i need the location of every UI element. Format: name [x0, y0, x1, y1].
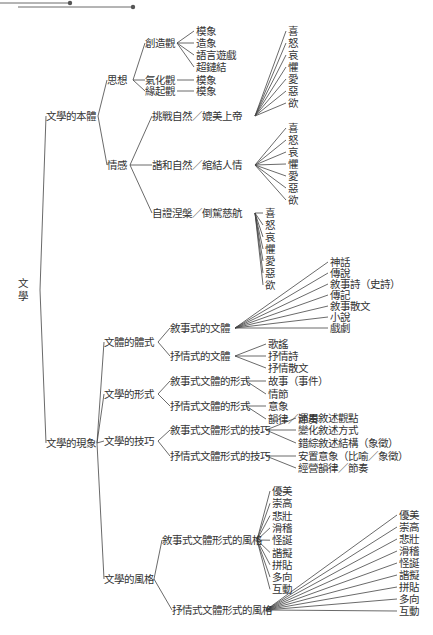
form-leaf: 情節 [268, 388, 288, 400]
category-node: 思想 [107, 74, 127, 86]
style-leaf: 崇高 [272, 497, 292, 509]
subcategory-node: 自證涅槃／倒駕慈航 [152, 207, 242, 219]
technique-leaf: 運用敘述觀點 [298, 412, 358, 424]
genre-leaf: 抒情散文 [268, 362, 308, 374]
header-decoration [0, 1, 135, 9]
emotion-leaf: 喜 [288, 122, 298, 134]
subcategory-node: 敘事式的文體 [170, 322, 230, 334]
form-leaf: 意象 [268, 400, 288, 412]
emotion-leaf: 哀 [288, 49, 298, 61]
emotion-leaf: 怒 [288, 37, 298, 49]
emotion-leaf: 惡 [288, 182, 298, 194]
style-leaf: 多向 [272, 571, 292, 583]
category-node: 文體的體式 [104, 336, 154, 348]
root-node: 文 學 [17, 277, 29, 303]
leaf-node: 模象 [196, 85, 216, 97]
subcategory-node: 挑戰自然／媲美上帝 [152, 110, 242, 122]
style-leaf: 互動 [272, 583, 292, 595]
style-leaf: 拼貼 [272, 559, 292, 571]
category-node: 文學的技巧 [104, 435, 154, 447]
literature-tree-diagram: 文 學 文學的本體文學的現象思想情感創造觀氣化觀緣起觀模象造象語言遊戲超鏈結模象… [0, 0, 433, 635]
form-leaf: 故事（事件） [268, 375, 328, 387]
subcategory-node: 抒情式的文體 [170, 350, 230, 362]
emotion-leaf: 惡 [265, 267, 275, 279]
style-leaf: 崇高 [399, 521, 419, 533]
technique-leaf: 錯綜敘述結構（象徵） [298, 437, 398, 449]
subcategory-node: 諧和自然／綰結人情 [152, 159, 242, 171]
style-leaf: 拼貼 [399, 581, 419, 593]
emotion-leaf: 懼 [288, 61, 298, 73]
emotion-leaf: 愛 [288, 73, 298, 85]
subcategory-node: 創造觀 [145, 37, 175, 49]
style-leaf: 互動 [399, 605, 419, 617]
style-leaf: 滑稽 [272, 522, 292, 534]
style-leaf: 諧擬 [399, 569, 419, 581]
emotion-leaf: 懼 [288, 158, 298, 170]
category-node: 文學的風格 [104, 573, 154, 585]
technique-leaf: 經營韻律／節奏 [298, 462, 368, 474]
style-leaf: 諧擬 [272, 547, 292, 559]
branch-node: 文學的現象 [46, 437, 96, 449]
style-leaf: 悲壯 [399, 533, 419, 545]
style-leaf: 怪誕 [399, 557, 419, 569]
emotion-leaf: 欲 [288, 194, 298, 206]
emotion-leaf: 惡 [288, 85, 298, 97]
subcategory-node: 緣起觀 [145, 85, 175, 97]
emotion-leaf: 喜 [265, 207, 275, 219]
leaf-node: 造象 [196, 37, 216, 49]
branch-node: 文學的本體 [46, 110, 96, 122]
emotion-leaf: 愛 [288, 170, 298, 182]
style-leaf: 多向 [399, 593, 419, 605]
root-char: 學 [17, 290, 29, 303]
genre-leaf: 抒情詩 [268, 350, 298, 362]
subcategory-node: 抒情式文體的形式 [170, 400, 250, 412]
subcategory-node: 敘事式文體形式的風格 [162, 534, 262, 546]
emotion-leaf: 愛 [265, 255, 275, 267]
style-leaf: 悲壯 [272, 510, 292, 522]
emotion-leaf: 欲 [265, 279, 275, 291]
genre-leaf: 歌謠 [268, 338, 288, 350]
root-char: 文 [17, 277, 29, 290]
subcategory-node: 敘事式文體形式的技巧 [170, 424, 270, 436]
subcategory-node: 抒情式文體形式的技巧 [170, 450, 270, 462]
leaf-node: 模象 [196, 25, 216, 37]
style-leaf: 優美 [272, 485, 292, 497]
style-leaf: 優美 [399, 509, 419, 521]
emotion-leaf: 懼 [265, 243, 275, 255]
emotion-leaf: 哀 [265, 231, 275, 243]
category-node: 文學的形式 [104, 388, 154, 400]
genre-leaf: 戲劇 [330, 322, 350, 334]
style-leaf: 怪誕 [272, 534, 292, 546]
technique-leaf: 安置意象（比喻／象徵） [298, 450, 408, 462]
technique-leaf: 變化敘述方式 [298, 424, 358, 436]
emotion-leaf: 哀 [288, 146, 298, 158]
emotion-leaf: 欲 [288, 97, 298, 109]
category-node: 情感 [107, 159, 127, 171]
subcategory-node: 敘事式文體的形式 [170, 375, 250, 387]
leaf-node: 語言遊戲 [196, 49, 236, 61]
subcategory-node: 抒情式文體形式的風格 [172, 604, 272, 616]
emotion-leaf: 怒 [288, 134, 298, 146]
style-leaf: 滑稽 [399, 545, 419, 557]
emotion-leaf: 怒 [265, 219, 275, 231]
emotion-leaf: 喜 [288, 25, 298, 37]
leaf-node: 超鏈結 [196, 61, 226, 73]
